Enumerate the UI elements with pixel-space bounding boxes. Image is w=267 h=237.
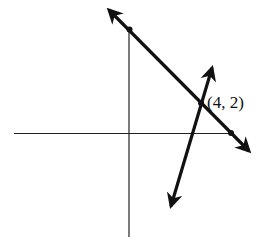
line-2 [171, 68, 212, 206]
x-intercept-point [228, 130, 234, 136]
coordinate-diagram: (4, 2) [0, 0, 267, 237]
intersection-point [198, 100, 204, 106]
y-intercept-point [127, 27, 133, 33]
intersection-label: (4, 2) [207, 93, 244, 112]
